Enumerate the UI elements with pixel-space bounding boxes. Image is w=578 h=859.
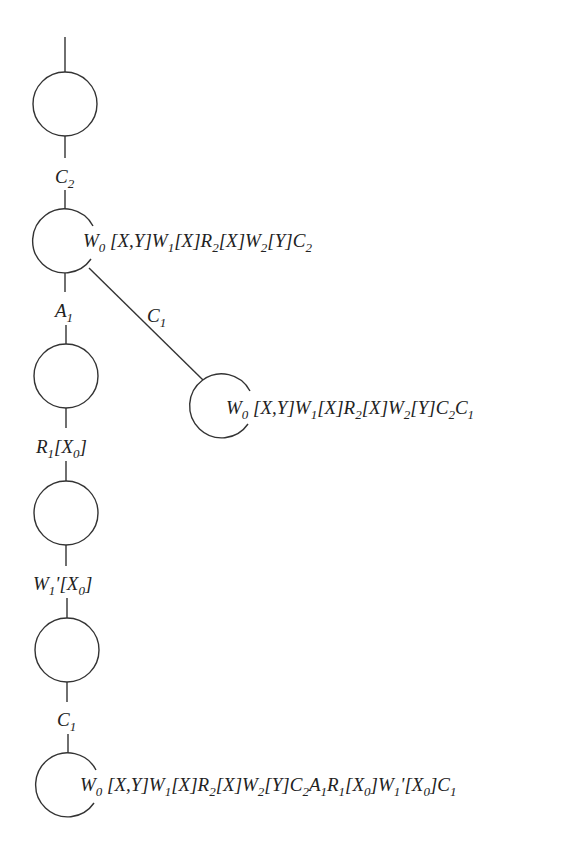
edge-label-c1: C1 — [57, 709, 76, 734]
edge-label-w1prime-x0: W1'[X0] — [33, 573, 92, 598]
edge-n1-b1 — [89, 268, 203, 380]
edge-label-a1: A1 — [53, 300, 73, 325]
node-0 — [33, 72, 97, 136]
edge-label-c1-branch: C1 — [147, 305, 166, 330]
node-branch-label: W0 [X,Y]W1[X]R2[X]W2[Y]C2C1 — [226, 397, 474, 422]
history-tree-diagram: C2 W0 [X,Y]W1[X]R2[X]W2[Y]C2 A1 C1 W0 [X… — [0, 0, 578, 859]
node-2 — [34, 344, 98, 408]
node-5-label: W0 [X,Y]W1[X]R2[X]W2[Y]C2A1R1[X0]W1'[X0]… — [80, 774, 457, 799]
node-3 — [34, 481, 98, 545]
node-1-label: W0 [X,Y]W1[X]R2[X]W2[Y]C2 — [83, 230, 312, 255]
node-4 — [35, 618, 99, 682]
edge-label-c2: C2 — [55, 166, 75, 191]
edge-label-r1x0: R1[X0] — [35, 436, 87, 461]
